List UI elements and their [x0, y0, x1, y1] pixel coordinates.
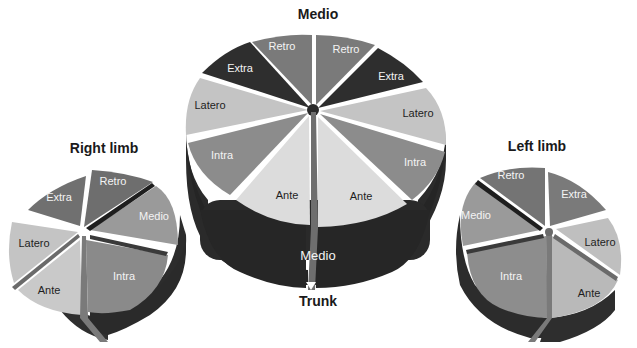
right-limb-title: Right limb — [70, 140, 138, 156]
trunk-label-latero-right: Latero — [402, 107, 433, 119]
left-limb-label-extra: Extra — [561, 188, 588, 200]
right-limb-label-extra: Extra — [46, 191, 73, 203]
trunk-label-ante-right: Ante — [350, 190, 373, 202]
left-limb-title: Left limb — [508, 138, 566, 154]
trunk-label-extra-left: Extra — [227, 62, 254, 74]
left-limb-label-ante: Ante — [578, 287, 601, 299]
right-limb-label-ante: Ante — [38, 284, 61, 296]
right-limb-label-latero: Latero — [18, 237, 49, 249]
trunk-side-label-medio: Medio — [300, 248, 335, 263]
trunk-label-latero-left: Latero — [194, 99, 225, 111]
right-limb-label-intra: Intra — [113, 270, 136, 282]
trunk-label-ante-left: Ante — [276, 189, 299, 201]
left-limb-label-intra: Intra — [500, 270, 523, 282]
body-region-diagram: Retro Retro Extra Extra Latero Latero In… — [0, 0, 637, 348]
left-limb-label-latero: Latero — [584, 236, 615, 248]
right-limb-label-retro: Retro — [100, 175, 127, 187]
trunk-label-extra-right: Extra — [378, 70, 405, 82]
left-limb-cylinder — [456, 167, 621, 342]
trunk-label-retro-left: Retro — [269, 40, 296, 52]
trunk-label-retro-right: Retro — [333, 43, 360, 55]
trunk-label-intra-right: Intra — [404, 156, 427, 168]
trunk-label-intra-left: Intra — [211, 149, 234, 161]
left-limb-label-medio: Medio — [461, 209, 491, 221]
left-limb-label-retro: Retro — [498, 169, 525, 181]
trunk-bottom-title: Trunk — [299, 293, 337, 309]
right-limb-cylinder — [9, 170, 186, 342]
right-limb-label-medio: Medio — [139, 210, 169, 222]
trunk-top-title: Medio — [298, 6, 338, 22]
